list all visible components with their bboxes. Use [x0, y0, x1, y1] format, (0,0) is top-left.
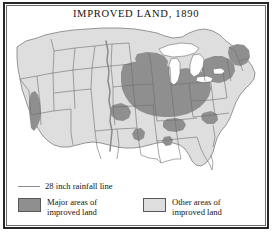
legend-item-other: Other areas of improved land [143, 197, 222, 217]
rainfall-line-swatch [18, 186, 40, 187]
legend-label-major: Major areas of improved land [47, 197, 97, 217]
legend-label-other-line1: Other areas of [172, 197, 222, 207]
page-title: IMPROVED LAND, 1890 [8, 8, 264, 19]
map-legend: 28 inch rainfall line Major areas of imp… [7, 179, 265, 226]
legend-label-major-line1: Major areas of [47, 197, 97, 207]
map-figure: IMPROVED LAND, 1890 [0, 0, 273, 233]
major-area-swatch [18, 198, 41, 212]
other-area-swatch [143, 198, 166, 212]
legend-label-other: Other areas of improved land [172, 197, 222, 217]
us-map [7, 21, 265, 179]
legend-item-rainfall: 28 inch rainfall line [18, 181, 113, 191]
legend-item-major: Major areas of improved land [18, 197, 97, 217]
legend-label-other-line2: improved land [172, 207, 222, 217]
legend-label-major-line2: improved land [47, 207, 97, 217]
legend-label-rainfall: 28 inch rainfall line [45, 181, 113, 191]
